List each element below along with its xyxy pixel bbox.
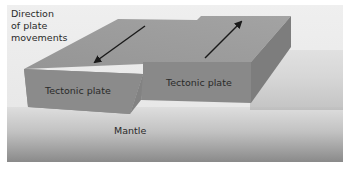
plate-boundary-diagram: Direction of plate movements Tectonic pl…	[0, 0, 348, 170]
left-plate-label: Tectonic plate	[44, 85, 111, 96]
mantle-label: Mantle	[114, 125, 146, 136]
mantle	[7, 107, 343, 162]
right-plate-label: Tectonic plate	[165, 77, 232, 88]
